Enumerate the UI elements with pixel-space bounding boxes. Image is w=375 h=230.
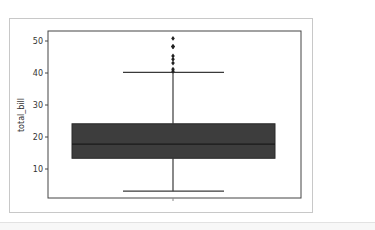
y-tick-label: 50 [33,37,43,46]
outlier-marker [171,53,175,58]
box-plot-series [72,36,275,191]
y-tick-label: 40 [33,69,43,78]
next-cell-edge [0,223,375,230]
outlier-marker [171,44,175,49]
y-axis-label: total_bill [17,98,26,132]
iqr-box [72,124,275,158]
y-tick-label: 30 [33,101,43,110]
y-tick-label: 10 [33,165,43,174]
y-axis-ticks: 1020304050 [33,37,173,201]
box-plot-chart: 1020304050 total_bill [0,0,375,230]
y-tick-label: 20 [33,133,43,142]
outlier-marker [171,36,175,41]
